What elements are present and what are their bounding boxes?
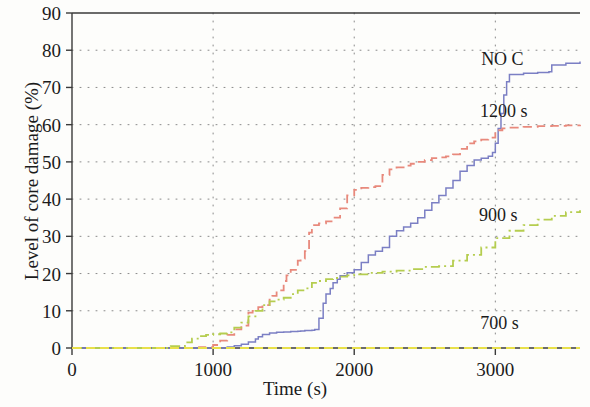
x-tick-label: 1000: [194, 359, 232, 380]
y-tick-label: 90: [42, 3, 61, 24]
y-tick-label: 70: [42, 77, 61, 98]
y-tick-label: 40: [42, 189, 61, 210]
series-annotations: NO C1200 s900 s700 s: [479, 49, 528, 333]
x-tick-label: 3000: [476, 359, 514, 380]
chart-figure: 0102030405060708090 0100020003000 NO C12…: [0, 0, 590, 407]
x-axis-tick-labels: 0100020003000: [67, 359, 514, 380]
y-tick-label: 20: [42, 264, 61, 285]
y-tick-label: 0: [52, 338, 62, 359]
y-tick-label: 10: [42, 301, 61, 322]
y-axis-tick-labels: 0102030405060708090: [42, 3, 61, 359]
y-tick-label: 80: [42, 40, 61, 61]
series-label-1200-s: 1200 s: [480, 101, 528, 121]
axis-ticks: [66, 13, 495, 355]
chart-plot-area: 0102030405060708090 0100020003000 NO C12…: [0, 0, 590, 407]
y-tick-label: 50: [42, 152, 61, 173]
y-axis-title: Level of core damage (%): [21, 51, 43, 311]
x-tick-label: 2000: [335, 359, 373, 380]
y-tick-label: 60: [42, 115, 61, 136]
series-label-900-s: 900 s: [479, 205, 518, 225]
x-axis-title: Time (s): [0, 378, 590, 400]
y-tick-label: 30: [42, 226, 61, 247]
series-label-no-c: NO C: [481, 49, 524, 69]
series-label-700-s: 700 s: [480, 313, 519, 333]
x-tick-label: 0: [67, 359, 77, 380]
